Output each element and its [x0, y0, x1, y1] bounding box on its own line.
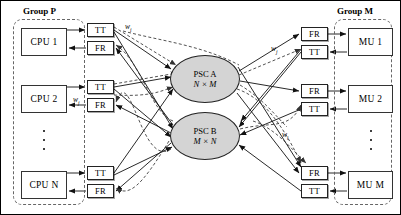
mu-node-1[interactable]: MU 1 [348, 28, 393, 56]
cpu-node-2[interactable]: CPU 2 [21, 85, 67, 113]
right-fr-1[interactable]: FR [301, 27, 328, 41]
group-m-label: Group M [337, 6, 373, 16]
left-tt-2[interactable]: TT [87, 80, 114, 94]
ellipsis-dot [370, 130, 372, 132]
ellipsis-dot [43, 139, 45, 141]
switch-psc-b[interactable]: PSC B M × N [170, 112, 240, 160]
left-fr-1[interactable]: FR [87, 41, 114, 55]
weight-label-wj-top-right: wj [271, 44, 278, 55]
left-tt-n[interactable]: TT [87, 166, 114, 180]
cpu-node-n[interactable]: CPU N [21, 171, 67, 199]
left-fr-2[interactable]: FR [87, 98, 114, 112]
weight-label-wj-mid-left: wj [73, 95, 80, 106]
mu-ellipsis [369, 130, 373, 150]
figure-canvas: Group P Group M CPU 1 CPU 2 CPU N MU 1 M… [0, 0, 401, 215]
weight-label-wi-top-left: wi [125, 22, 132, 33]
weight-sub: i [130, 27, 132, 33]
mu-node-m[interactable]: MU M [348, 171, 393, 199]
right-tt-2[interactable]: TT [301, 102, 328, 116]
psc-b-name: PSC B [193, 126, 216, 136]
weight-sub: i [287, 135, 289, 141]
group-p-label: Group P [23, 6, 56, 16]
left-tt-1[interactable]: TT [87, 23, 114, 37]
ellipsis-dot [370, 139, 372, 141]
weight-label-wi-bottom-right: wi [282, 130, 289, 141]
weight-sub: j [78, 100, 80, 106]
right-fr-m[interactable]: FR [301, 166, 328, 180]
left-fr-n[interactable]: FR [87, 184, 114, 198]
ellipsis-dot [43, 148, 45, 150]
ellipsis-dot [43, 130, 45, 132]
psc-b-dimensions: M × N [194, 136, 217, 146]
ellipsis-dot [370, 148, 372, 150]
cpu-node-1[interactable]: CPU 1 [21, 28, 67, 56]
weight-sub: j [276, 49, 278, 55]
right-fr-2[interactable]: FR [301, 84, 328, 98]
right-tt-1[interactable]: TT [301, 45, 328, 59]
psc-a-dimensions: N × M [194, 79, 217, 89]
switch-psc-a[interactable]: PSC A N × M [170, 55, 240, 103]
psc-a-name: PSC A [193, 69, 216, 79]
mu-node-2[interactable]: MU 2 [348, 85, 393, 113]
right-tt-m[interactable]: TT [301, 184, 328, 198]
cpu-ellipsis [42, 130, 46, 150]
